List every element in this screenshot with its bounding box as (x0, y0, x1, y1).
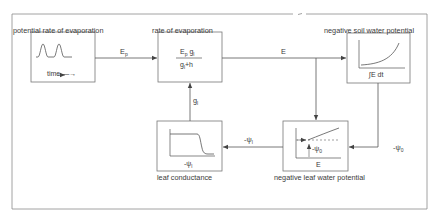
leaf-water-potential-title: negative leaf water potential (274, 174, 365, 181)
leaf-E-axis-label: E (316, 161, 321, 168)
psi0-connection-label: -ψ0 (393, 144, 403, 153)
psi-subscript: 0 (319, 148, 322, 154)
integral-axis-label: ∫E dt (369, 71, 383, 78)
psi0-sub: 0 (401, 147, 404, 153)
Ep-sub: p (125, 51, 128, 57)
leaf-conductance-title: leaf conductance (157, 174, 212, 181)
soil-water-potential-title: negative soil water potential (324, 27, 414, 34)
psil-psi: -ψ (244, 135, 252, 144)
psil-connection-label: -ψl (244, 136, 253, 145)
time-axis-label: time —→ (47, 70, 76, 77)
rate-of-evaporation-title: rate of evaporation (152, 27, 213, 34)
formula-denominator: gl+h (180, 61, 193, 70)
numerator-g-sub: l (193, 51, 194, 57)
psi0-psi: -ψ (393, 143, 401, 152)
psil-sub: l (252, 139, 253, 145)
gl-connection-label: gl (193, 97, 198, 106)
denominator-plus-h: +h (185, 61, 193, 68)
formula-numerator: Ep gl (180, 48, 194, 57)
potential-evaporation-title: potential rate of evaporation (13, 27, 103, 34)
rate-of-evaporation-box (158, 32, 222, 82)
gl-sub: l (197, 100, 198, 106)
conductance-axis-label: -ψl (184, 160, 192, 169)
E-connection-label: E (281, 48, 286, 55)
psi-subscript: l (191, 163, 192, 169)
leaf-psi0-annotation: -ψ0 (312, 145, 322, 154)
Ep-connection-label: Ep (120, 48, 128, 57)
